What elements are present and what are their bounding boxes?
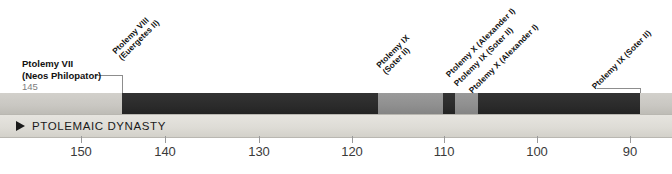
leader-line-ptolemy-vii-drop xyxy=(122,75,123,93)
label-ptolemy-vii-epithet: (Neos Philopator) xyxy=(22,70,101,82)
axis-tick-label: 100 xyxy=(526,144,548,159)
axis-tick-label: 150 xyxy=(70,144,92,159)
dynasty-label: PTOLEMAIC DYNASTY xyxy=(32,120,166,132)
axis-tick xyxy=(352,136,353,143)
axis-tick-label: 110 xyxy=(434,144,455,159)
axis-tick xyxy=(259,136,260,143)
reign-bar xyxy=(0,93,672,114)
reign-segment-ptolemy-ix-2[interactable] xyxy=(455,93,478,114)
reign-segment-light-end[interactable] xyxy=(640,93,672,114)
reign-segment-ptolemy-x-2[interactable] xyxy=(478,93,640,114)
label-ptolemy-vii[interactable]: Ptolemy VII (Neos Philopator) 145 xyxy=(22,58,101,93)
reign-segment-ptolemy-x-1[interactable] xyxy=(443,93,455,114)
right-triangle-icon xyxy=(16,121,25,131)
axis-tick-label: 120 xyxy=(341,144,363,159)
axis-tick xyxy=(537,136,538,143)
dynasty-band[interactable]: PTOLEMAIC DYNASTY xyxy=(0,114,672,138)
axis-tick xyxy=(81,136,82,143)
axis-tick xyxy=(165,136,166,143)
axis-tick xyxy=(630,136,631,143)
leader-line-ptolemy-ix-right-drop xyxy=(640,88,641,93)
reign-segment-ptolemy-ix-1[interactable] xyxy=(378,93,443,114)
label-ptolemy-ix-soter-ii-3[interactable]: Ptolemy IX (Soter II) xyxy=(590,29,653,92)
axis-tick-label: 90 xyxy=(623,144,637,159)
time-axis: 150 140 130 120 110 100 90 xyxy=(0,136,672,174)
label-ptolemy-vii-name: Ptolemy VII xyxy=(22,58,101,70)
leader-line-ptolemy-ix-right xyxy=(597,88,640,89)
label-ptolemy-viii[interactable]: Ptolemy VIII (Euergetes II) xyxy=(111,12,162,63)
axis-tick xyxy=(444,136,445,143)
timeline-chart: Ptolemy VII (Neos Philopator) 145 Ptolem… xyxy=(0,0,672,174)
label-ptolemy-x-1-line1: Ptolemy X (Alexander I) xyxy=(444,6,517,79)
label-ptolemy-ix-3-line1: Ptolemy IX (Soter II) xyxy=(590,29,653,92)
label-ptolemy-ix-soter-ii-1[interactable]: Ptolemy IX (Soter II) xyxy=(375,33,419,77)
label-ptolemy-vii-year: 145 xyxy=(22,81,101,93)
axis-tick-label: 140 xyxy=(154,144,176,159)
label-ptolemy-x-alexander-i-1[interactable]: Ptolemy X (Alexander I) xyxy=(444,6,517,79)
axis-tick-label: 130 xyxy=(248,144,270,159)
reign-segment-light-start[interactable] xyxy=(0,93,122,114)
reign-segment-ptolemy-viii[interactable] xyxy=(122,93,378,114)
